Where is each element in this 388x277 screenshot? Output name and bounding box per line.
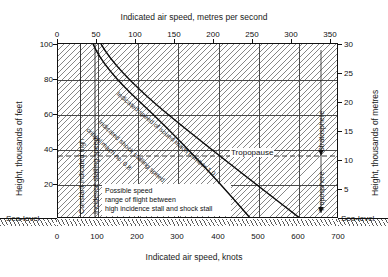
bottom-tick-400: 400 (211, 232, 224, 241)
incidence-stalling-speed-label: Incidence stalling speed (91, 137, 100, 214)
ground-hatch-left (0, 219, 57, 226)
bottom-tick-600: 600 (291, 232, 304, 241)
right-tick-10: 10 (344, 156, 353, 165)
possible-speed-range-note: Possible speed range of flight between h… (103, 185, 214, 215)
bottom-tick-700: 700 (331, 232, 344, 241)
right-tick-25: 25 (344, 69, 353, 78)
right-tick-5: 5 (344, 185, 348, 194)
troposphere-label: Troposphere (317, 172, 326, 213)
top-axis-title: Indicated air speed, metres per second (0, 12, 388, 22)
bottom-tick-100: 100 (90, 232, 103, 241)
top-tick-200: 200 (206, 30, 219, 39)
stratosphere-label: Stratosphere (317, 111, 326, 152)
top-tick-0: 0 (55, 30, 59, 39)
top-tick-150: 150 (167, 30, 180, 39)
note-line-2: range of flight between (105, 195, 212, 204)
left-tick-80: 80 (31, 75, 53, 84)
bottom-tick-0: 0 (55, 232, 59, 241)
top-tick-350: 350 (323, 30, 336, 39)
left-tick-100: 100 (31, 40, 53, 49)
tick-mark-right (338, 44, 342, 45)
ground-hatch-center (57, 219, 338, 226)
left-tick-20: 20 (31, 180, 53, 189)
bottom-axis-title: Indicated air speed, knots (0, 252, 388, 262)
tick-mark-right (338, 73, 342, 74)
left-tick-60: 60 (31, 110, 53, 119)
tick-mark-right (338, 102, 342, 103)
right-tick-15: 15 (344, 127, 353, 136)
tick-mark-right (338, 131, 342, 132)
right-axis-title: Height, thousands of metres (370, 90, 380, 196)
note-line-1: Possible speed (105, 186, 212, 195)
right-tick-20: 20 (344, 98, 353, 107)
constant-indicated-high-label: Constant indicated high (77, 139, 86, 214)
ground-hatch-right (338, 219, 388, 226)
plot-area: Indicated speed of sound mach number 1.0… (57, 43, 338, 218)
tropopause-label: Tropopause (230, 148, 274, 157)
right-tick-30: 30 (344, 40, 353, 49)
bottom-tick-200: 200 (130, 232, 143, 241)
bottom-tick-500: 500 (251, 232, 264, 241)
note-line-3: high incidence stall and shock stall (105, 204, 212, 213)
top-tick-50: 50 (92, 30, 101, 39)
top-tick-100: 100 (128, 30, 141, 39)
top-tick-300: 300 (284, 30, 297, 39)
tick-mark-right (338, 189, 342, 190)
left-tick-40: 40 (31, 145, 53, 154)
bottom-tick-300: 300 (170, 232, 183, 241)
tick-mark-right (338, 160, 342, 161)
left-axis-title: Height, thousands of feet (14, 101, 24, 196)
top-tick-250: 250 (245, 30, 258, 39)
flight-envelope-chart: Indicated air speed, metres per second I… (0, 0, 388, 277)
